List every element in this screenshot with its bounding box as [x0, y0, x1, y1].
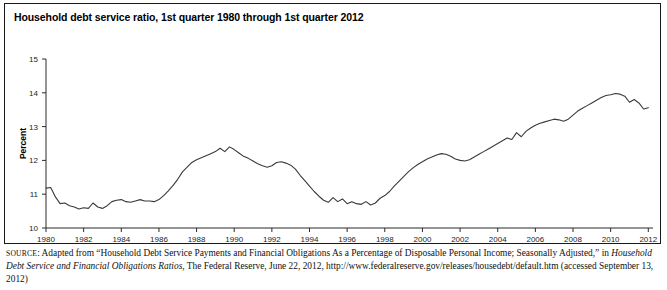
source-part-1: : Adapted from “Household Debt Service P… — [37, 248, 611, 258]
x-tick-label: 2006 — [526, 235, 544, 244]
x-tick-label: 2010 — [602, 235, 620, 244]
y-tick-label: 15 — [29, 55, 38, 64]
y-tick-label: 10 — [29, 224, 38, 233]
x-tick-label: 2002 — [451, 235, 469, 244]
figure-container: Household debt service ratio, 1st quarte… — [0, 0, 667, 290]
source-note: SOURCE: Adapted from “Household Debt Ser… — [6, 247, 661, 285]
line-chart: 101112131415 198019821984198619881990199… — [0, 0, 667, 248]
x-tick-label: 1992 — [263, 235, 281, 244]
x-tick-label: 1980 — [37, 235, 55, 244]
x-axis-ticks: 1980198219841986198819901992199419961998… — [37, 228, 658, 244]
chart-plot-area: 101112131415 198019821984198619881990199… — [0, 0, 667, 248]
y-tick-label: 13 — [29, 123, 38, 132]
source-label: SOURCE — [6, 249, 37, 258]
y-tick-label: 14 — [29, 89, 38, 98]
y-tick-label: 12 — [29, 156, 38, 165]
x-tick-label: 2000 — [414, 235, 432, 244]
x-tick-label: 1996 — [338, 235, 356, 244]
x-tick-label: 1990 — [225, 235, 243, 244]
x-tick-label: 1982 — [75, 235, 93, 244]
x-tick-label: 2008 — [564, 235, 582, 244]
x-tick-label: 2012 — [639, 235, 657, 244]
y-axis-ticks: 101112131415 — [29, 55, 46, 233]
x-tick-label: 2004 — [489, 235, 507, 244]
x-tick-label: 1984 — [112, 235, 130, 244]
x-tick-label: 1986 — [150, 235, 168, 244]
data-series-line — [46, 93, 648, 209]
y-axis-label: Percent — [18, 128, 28, 159]
y-tick-label: 11 — [30, 190, 39, 199]
x-tick-label: 1994 — [301, 235, 319, 244]
x-tick-label: 1988 — [188, 235, 206, 244]
x-tick-label: 1998 — [376, 235, 394, 244]
